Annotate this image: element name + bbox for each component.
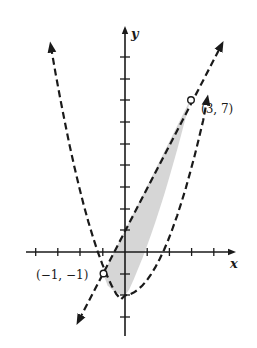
line-curve <box>79 46 221 320</box>
point-3-7 <box>188 97 195 104</box>
x-axis-label: x <box>229 256 238 271</box>
graph-canvas: (3, 7) (−1, −1) x y <box>0 0 257 348</box>
point-neg1-neg1 <box>100 270 107 277</box>
point-label-3-7: (3, 7) <box>201 102 233 116</box>
point-label-neg1-neg1: (−1, −1) <box>36 268 88 282</box>
y-axis-label: y <box>130 26 140 41</box>
